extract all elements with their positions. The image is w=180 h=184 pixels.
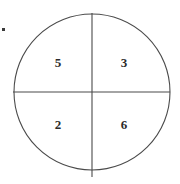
- edge-speck-mark: [2, 28, 5, 31]
- quadrant-label-lower-right: 6: [113, 118, 135, 131]
- figure-canvas: 5 3 2 6: [0, 0, 180, 184]
- circle-quadrant-diagram: [0, 0, 180, 184]
- quadrant-label-lower-left: 2: [47, 118, 69, 131]
- quadrant-label-upper-left: 5: [47, 56, 69, 69]
- quadrant-label-upper-right: 3: [113, 56, 135, 69]
